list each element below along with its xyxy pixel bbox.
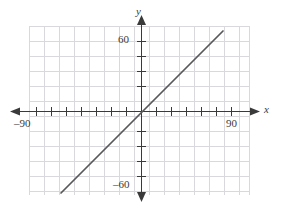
x-axis-name-label: x [264,104,269,115]
y-axis-name-label: y [136,6,141,17]
graph-figure: –90 90 60 –60 x y [0,0,287,203]
coordinate-plane-svg [0,0,287,203]
x-axis-tick-label-negative-90: –90 [14,118,31,129]
x-axis-left-arrowhead [10,108,20,116]
y-axis-tick-label-negative-60: –60 [113,179,130,190]
x-axis-right-arrowhead [250,108,260,116]
y-axis-tick-label-60: 60 [118,34,129,45]
y-axis-down-arrowhead [137,192,146,202]
x-axis-tick-label-90: 90 [226,118,237,129]
